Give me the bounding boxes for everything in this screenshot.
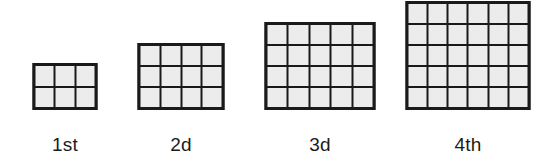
grid-cell [489, 4, 507, 23]
grid-cell [449, 67, 467, 86]
figure-label: 4th [454, 134, 481, 156]
grid-cell [429, 25, 447, 44]
grid-cell [429, 46, 447, 65]
grid-cell [469, 46, 487, 65]
grid-cell [353, 46, 372, 65]
grid-cell [76, 66, 94, 86]
grid-cell [310, 88, 329, 107]
grid-cell [449, 4, 467, 23]
grid-rectangle [406, 1, 531, 110]
grid-cell [509, 67, 527, 86]
figure-group: 4th [398, 0, 538, 166]
grid-cell [268, 88, 287, 107]
figure-group: 3d [250, 0, 390, 166]
grid-cell [409, 67, 427, 86]
grid-cell [509, 4, 527, 23]
grid-cell [489, 46, 507, 65]
grid-cell [268, 46, 287, 65]
grid-cell [449, 46, 467, 65]
grid-cell [182, 88, 201, 107]
grid-cell [332, 88, 351, 107]
grid-cell [268, 25, 287, 44]
grid-cell [310, 25, 329, 44]
grid-cell [409, 46, 427, 65]
grid-cell [489, 67, 507, 86]
grid-cell [182, 67, 201, 86]
grid-cell [429, 4, 447, 23]
grid-cell [469, 67, 487, 86]
grid-cell [429, 67, 447, 86]
grid-cell [203, 67, 222, 86]
grid-cell [141, 67, 160, 86]
grid-cell [509, 46, 527, 65]
figure-label: 2d [170, 134, 192, 156]
grid-cell [56, 66, 74, 86]
grid-cell [449, 88, 467, 107]
grid-rectangle [33, 63, 98, 110]
grid-cell [203, 46, 222, 65]
grid-cell [289, 46, 308, 65]
grid-cell [203, 88, 222, 107]
grid-rectangle [138, 43, 225, 110]
grid-cell [332, 67, 351, 86]
grid-cell [161, 67, 180, 86]
grid-sequence-figure: 1st2d3d4th [0, 0, 555, 166]
grid-cell [161, 88, 180, 107]
grid-cell [76, 88, 94, 108]
figure-label: 3d [309, 134, 331, 156]
grid-cell [509, 88, 527, 107]
grid-cell [469, 25, 487, 44]
grid-cell [429, 88, 447, 107]
figure-label: 1st [52, 134, 78, 156]
grid-cell [509, 25, 527, 44]
grid-cell [332, 25, 351, 44]
grid-cell [161, 46, 180, 65]
grid-cell [36, 66, 54, 86]
grid-cell [268, 67, 287, 86]
figure-group: 2d [111, 0, 251, 166]
grid-cell [182, 46, 201, 65]
grid-cell [56, 88, 74, 108]
grid-cell [332, 46, 351, 65]
grid-cell [310, 67, 329, 86]
grid-cell [141, 46, 160, 65]
grid-rectangle [265, 22, 376, 110]
grid-cell [289, 88, 308, 107]
grid-cell [409, 88, 427, 107]
grid-cell [353, 25, 372, 44]
grid-cell [289, 25, 308, 44]
grid-cell [449, 25, 467, 44]
grid-cell [353, 67, 372, 86]
grid-cell [289, 67, 308, 86]
grid-cell [141, 88, 160, 107]
grid-cell [409, 25, 427, 44]
grid-cell [409, 4, 427, 23]
grid-cell [310, 46, 329, 65]
grid-cell [353, 88, 372, 107]
grid-cell [489, 25, 507, 44]
grid-cell [469, 4, 487, 23]
grid-cell [469, 88, 487, 107]
grid-cell [36, 88, 54, 108]
grid-cell [489, 88, 507, 107]
